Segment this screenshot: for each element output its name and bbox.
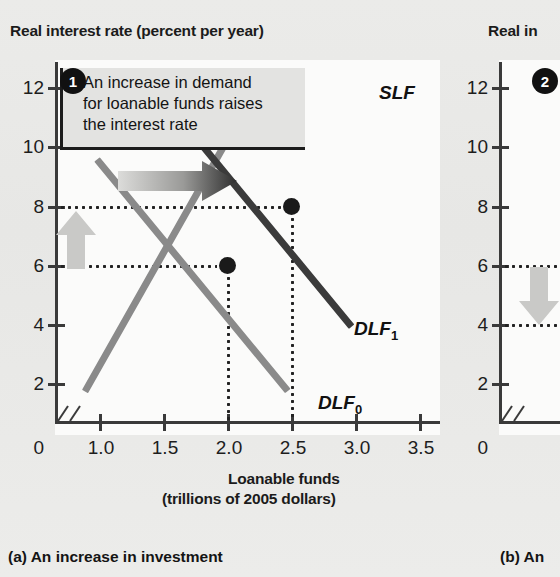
y-tick-label-2-a: 2 (0, 373, 44, 395)
x-tick-label-1-0: 1.0 (71, 437, 131, 459)
figure-page: Real interest rate (percent per year) 12… (0, 0, 560, 577)
callout-text-1: An increase in demand for loanable funds… (83, 72, 297, 135)
panel-a: Real interest rate (percent per year) 12… (0, 0, 440, 577)
guide-line-2-0 (227, 268, 230, 420)
y-axis-title-b: Real in (488, 22, 537, 40)
curve-label-dlf1-sub: 1 (391, 328, 398, 343)
axis-break-a (56, 400, 90, 424)
callout-badge-1: 1 (60, 68, 86, 94)
y-tick-2-b (492, 383, 509, 386)
callout-badge-2: 2 (532, 68, 558, 94)
interest-rate-fall-arrow (518, 266, 560, 326)
x-axis-line-a (55, 421, 440, 424)
y-tick-label-8-b: 8 (444, 196, 488, 218)
x-tick-1-5 (163, 414, 166, 431)
callout-box-1: An increase in demand for loanable funds… (60, 68, 305, 150)
y-tick-label-4-a: 4 (0, 314, 44, 336)
x-tick-label-1-5: 1.5 (135, 437, 195, 459)
y-tick-label-2-b: 2 (444, 373, 488, 395)
y-tick-label-6-a: 6 (0, 255, 44, 277)
panel-b-caption: (b) An (500, 548, 544, 566)
equilibrium-dot-new (283, 198, 300, 215)
guide-line-2-5 (291, 209, 294, 420)
y-tick-8-b (492, 206, 509, 209)
equilibrium-dot-initial (219, 257, 236, 274)
y-axis-line-b (499, 62, 502, 422)
curve-label-dlf0-sub: 0 (355, 402, 362, 417)
y-tick-label-6-b: 6 (444, 255, 488, 277)
x-tick-1-0 (99, 414, 102, 431)
y-tick-label-8-a: 8 (0, 196, 44, 218)
curve-label-slf: SLF (379, 82, 415, 104)
y-axis-title-a: Real interest rate (percent per year) (10, 22, 264, 40)
y-tick-label-10-a: 10 (0, 136, 44, 158)
x-axis-title-line2: (trillions of 2005 dollars) (162, 490, 336, 508)
y-tick-12-b (492, 87, 509, 90)
interest-rate-rise-arrow (55, 210, 99, 270)
y-tick-2-a (48, 383, 65, 386)
curve-label-dlf1-base: DLF (354, 318, 391, 339)
x-axis-title-line1: Loanable funds (228, 470, 340, 488)
y-tick-label-4-b: 4 (444, 314, 488, 336)
curve-label-dlf0: DLF0 (318, 392, 362, 417)
curve-label-dlf0-base: DLF (318, 392, 355, 413)
x-tick-label-2-5: 2.5 (263, 437, 323, 459)
y-tick-4-a (48, 324, 65, 327)
panel-a-caption: (a) An increase in investment (8, 548, 223, 566)
x-tick-3-5 (419, 414, 422, 431)
demand-shift-arrow (118, 160, 238, 202)
y-tick-label-10-b: 10 (444, 136, 488, 158)
y-tick-10-b (492, 146, 509, 149)
y-tick-label-12-b: 12 (444, 77, 488, 99)
origin-label-b: 0 (444, 437, 488, 459)
plot-area-b (499, 60, 560, 435)
panel-b: Real in 12 10 8 6 4 2 0 2 (440, 0, 560, 577)
y-tick-label-12-a: 12 (0, 77, 44, 99)
axis-break-b (500, 400, 534, 424)
curve-label-dlf1: DLF1 (354, 318, 398, 343)
x-tick-label-3-0: 3.0 (327, 437, 387, 459)
x-tick-label-2-0: 2.0 (199, 437, 259, 459)
origin-label-a: 0 (0, 437, 44, 459)
